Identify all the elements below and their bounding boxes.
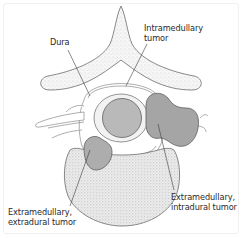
nerve-roots-left <box>36 105 85 138</box>
label-extramedullary-intradural-tumor: Extramedullary, intradural tumor <box>171 193 237 212</box>
vertebral-arch <box>41 6 202 90</box>
label-dura: Dura <box>50 38 69 48</box>
intramedullary-tumor <box>103 99 142 138</box>
label-ext-intradural-line2: intradural tumor <box>171 203 237 213</box>
vertebral-body <box>64 148 179 226</box>
label-ext-extradural-line2: extradural tumor <box>8 218 76 228</box>
label-extramedullary-extradural-tumor: Extramedullary, extradural tumor <box>8 208 76 227</box>
label-dura-text: Dura <box>50 38 69 48</box>
label-intramedullary-tumor: Intramedullary tumor <box>144 24 203 43</box>
label-intramedullary-line2: tumor <box>144 34 203 44</box>
extramedullary-intradural-tumor <box>146 93 199 146</box>
